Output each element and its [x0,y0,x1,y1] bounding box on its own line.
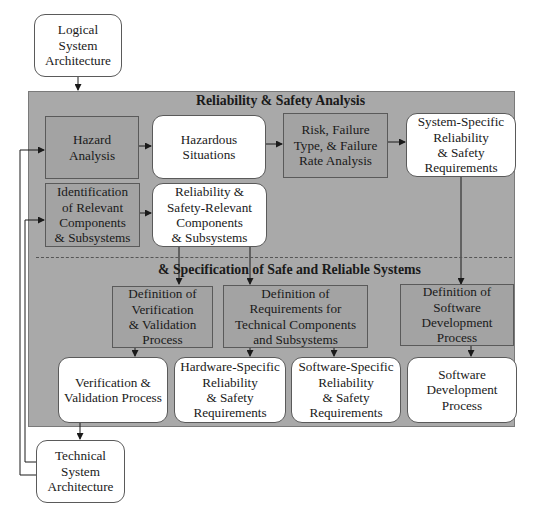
hardware-requirements-node: Hardware-Specific Reliability & Safety R… [174,357,286,423]
node-label: Hardware-Specific Reliability & Safety R… [180,359,280,421]
def-vv-process-node: Definition of Verification & Validation … [112,286,213,348]
section-divider [36,257,512,258]
risk-failure-analysis-node: Risk, Failure Type, & Failure Rate Analy… [283,113,388,178]
relevant-components-node: Reliability & Safety-Relevant Components… [152,183,267,247]
node-label: Logical System Architecture [45,22,111,68]
panel-title-analysis: Reliability & Safety Analysis [196,93,365,109]
software-requirements-node: Software-Specific Reliability & Safety R… [291,357,401,423]
software-development-process-node: Software Development Process [407,357,517,423]
node-label: Hazard Analysis [69,132,115,163]
node-label: Software Development Process [426,367,497,413]
node-label: Reliability & Safety-Relevant Components… [167,184,252,246]
technical-system-architecture-node: Technical System Architecture [36,440,125,503]
def-software-process-node: Definition of Software Development Proce… [400,284,514,346]
node-label: Hazardous Situations [181,132,237,163]
node-label: Definition of Verification & Validation … [128,286,197,348]
identification-components-node: Identification of Relevant Components & … [45,183,140,247]
vv-process-node: Verification & Validation Process [58,357,168,423]
def-requirements-node: Definition of Requirements for Technical… [223,285,368,348]
node-label: Definition of Software Development Proce… [421,284,492,346]
node-label: Verification & Validation Process [64,375,162,406]
node-label: Identification of Relevant Components & … [55,184,131,246]
system-specific-requirements-node: System-Specific Reliability & Safety Req… [406,113,516,177]
node-label: Software-Specific Reliability & Safety R… [298,359,393,421]
panel-title-specification: & Specification of Safe and Reliable Sys… [158,262,421,278]
node-label: Technical System Architecture [48,448,114,494]
node-label: System-Specific Reliability & Safety Req… [418,114,504,176]
hazard-analysis-node: Hazard Analysis [45,116,139,179]
logical-system-architecture-node: Logical System Architecture [34,14,122,77]
node-label: Definition of Requirements for Technical… [235,286,356,348]
node-label: Risk, Failure Type, & Failure Rate Analy… [294,122,378,168]
hazardous-situations-node: Hazardous Situations [152,115,266,179]
